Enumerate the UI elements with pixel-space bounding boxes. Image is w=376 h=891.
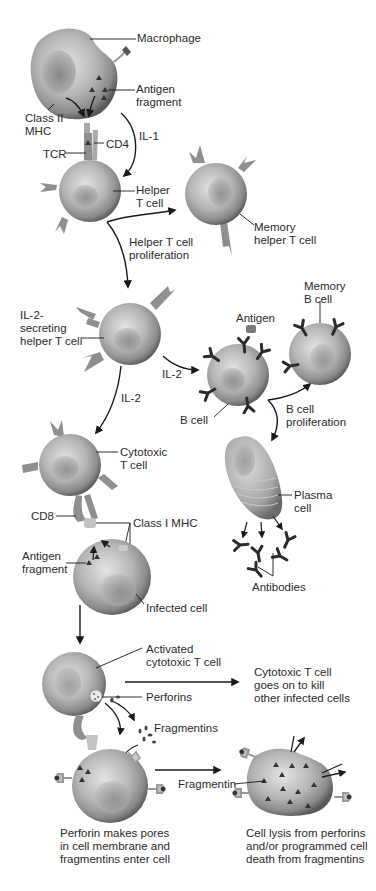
label-macrophage: Macrophage: [137, 32, 201, 45]
label-antigen-fragment-top: Antigen fragment: [136, 83, 181, 109]
label-il1: IL-1: [139, 130, 159, 143]
label-il2-down: IL-2: [121, 392, 141, 405]
label-b-cell-proliferation: B cell proliferation: [286, 403, 346, 429]
b-proliferation-arrow-down: [268, 400, 278, 440]
label-antigen-fragment-mid: Antigen fragment: [22, 550, 67, 576]
label-activated-cytotoxic: Activated cytotoxic T cell: [146, 643, 221, 669]
label-memory-helper-t-cell: Memory helper T cell: [254, 221, 316, 247]
label-fragmentin: Fragmentin: [178, 778, 236, 791]
label-goes-on-to-kill: Cytotoxic T cell goes on to kill other i…: [254, 666, 350, 705]
memory-helper-t-cell: [185, 145, 256, 256]
antigen-icon: [246, 325, 256, 333]
label-cd4: CD4: [106, 138, 129, 151]
label-b-cell: B cell: [180, 414, 208, 427]
label-class-i-mhc: Class I MHC: [133, 517, 198, 530]
label-antigen: Antigen: [236, 312, 275, 325]
lysed-cell: [233, 736, 352, 816]
target-cell-pored: [55, 749, 166, 823]
label-class-ii-mhc: Class II MHC: [25, 112, 63, 138]
helper-t-cell: [40, 160, 121, 234]
plasma-cell: [225, 436, 282, 519]
il2-arrow-down: [96, 366, 121, 433]
memory-b-cell: [283, 319, 351, 385]
perforin-granule-icon: [90, 690, 102, 702]
label-cd8: CD8: [31, 510, 54, 523]
proliferation-arrow-down: [107, 222, 128, 287]
label-il2-right: IL-2: [162, 368, 182, 381]
label-perforins: Perforins: [146, 691, 192, 704]
label-tcr: TCR: [43, 148, 67, 161]
label-memory-b-cell: Memory B cell: [304, 280, 346, 306]
label-helper-t-proliferation: Helper T cell proliferation: [129, 236, 193, 262]
b-proliferation-arrow-right: [268, 384, 310, 400]
il2-secreting-helper-t-cell: [76, 286, 175, 372]
activated-cytotoxic-t-cell: [42, 652, 106, 750]
label-helper-t-cell: Helper T cell: [136, 184, 170, 210]
b-cell: [200, 325, 269, 413]
caption-left: Perforin makes pores in cell membrane an…: [60, 827, 170, 866]
antibodies-group: [234, 532, 295, 579]
infected-cell: [73, 539, 151, 615]
label-cytotoxic-t-cell: Cytotoxic T cell: [120, 446, 167, 472]
caption-right: Cell lysis from perforins and/or program…: [246, 827, 367, 866]
label-fragmentins: Fragmentins: [154, 722, 218, 735]
label-infected-cell: Infected cell: [146, 602, 207, 615]
label-antibodies: Antibodies: [252, 581, 306, 594]
label-plasma-cell: Plasma cell: [294, 489, 332, 515]
proliferation-arrow-right: [107, 210, 175, 222]
label-il2-secreting: IL-2- secreting helper T cell: [20, 309, 82, 348]
